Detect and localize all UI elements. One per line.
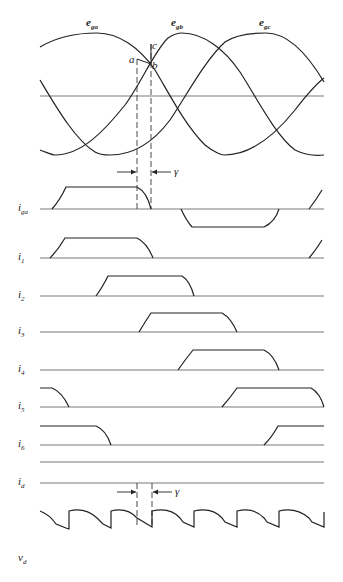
label-i5: i5 — [18, 400, 25, 414]
arrowhead-icon — [131, 170, 136, 175]
point-label-a: a — [129, 54, 135, 65]
vd-waveform — [40, 510, 324, 529]
label-i6: i6 — [18, 438, 25, 452]
e-gb-waveform — [40, 33, 324, 155]
label-e-gc: egc — [259, 17, 271, 31]
i-ga-waveform — [52, 187, 322, 227]
label-i-ga: iga — [18, 202, 28, 216]
i3-waveform — [139, 313, 237, 332]
i2-waveform — [96, 276, 194, 296]
label-i4: i4 — [18, 363, 25, 377]
arrowhead-icon — [131, 490, 136, 495]
point-label-b: b — [152, 60, 158, 71]
label-i2: i2 — [18, 289, 25, 303]
label-v-d: vd — [18, 552, 26, 566]
arrowhead-icon — [152, 170, 157, 175]
arrowhead-icon — [153, 490, 158, 495]
gamma-label-bottom: γ — [175, 486, 179, 497]
i4-waveform — [178, 350, 279, 370]
i5-waveform — [40, 388, 324, 407]
label-i3: i3 — [18, 325, 25, 339]
label-i-d: id — [18, 476, 25, 490]
label-i1: i1 — [18, 251, 25, 265]
label-e-gb: egb — [171, 17, 183, 31]
point-label-c: c — [152, 40, 157, 51]
current-baselines — [40, 209, 324, 483]
waveform-diagram — [0, 0, 343, 582]
i1-waveform — [50, 238, 322, 258]
gamma-label-top: γ — [174, 166, 178, 177]
label-e-ga: ega — [86, 17, 98, 31]
i6-waveform — [40, 426, 324, 445]
